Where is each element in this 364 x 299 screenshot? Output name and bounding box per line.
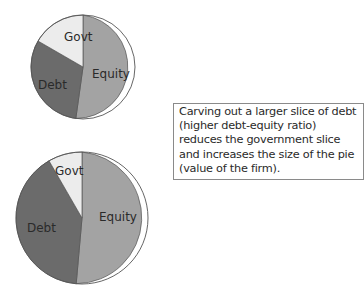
label-debt: Debt: [27, 221, 56, 235]
label-equity: Equity: [92, 67, 130, 81]
pie-chart-small: Govt Debt Equity: [28, 13, 138, 123]
label-debt: Debt: [38, 78, 67, 92]
explanation-note: Carving out a larger slice of debt (high…: [173, 103, 364, 180]
pie-chart-large: Govt Debt Equity: [14, 150, 152, 288]
label-equity: Equity: [99, 210, 137, 224]
label-govt: Govt: [64, 30, 93, 44]
label-govt: Govt: [55, 164, 84, 178]
